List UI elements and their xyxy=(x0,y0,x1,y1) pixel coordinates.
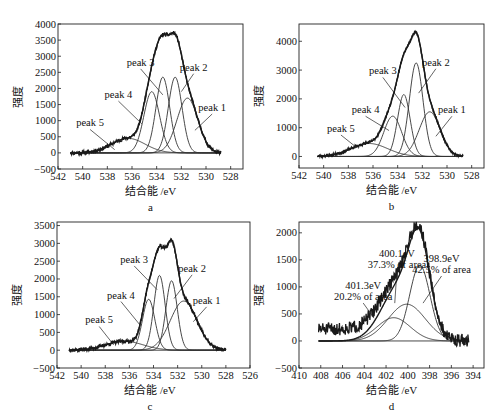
y-tick-label: 2000 xyxy=(276,227,297,238)
y-tick-label: 500 xyxy=(40,131,56,142)
x-tick-label: 536 xyxy=(365,170,381,181)
y-tick-label: 3500 xyxy=(35,35,56,46)
peak-annotation-label: peak 4 xyxy=(107,290,135,301)
y-tick-label: 0 xyxy=(292,151,297,162)
x-tick-label: 402 xyxy=(378,370,394,381)
peak-annotation-label: peak 1 xyxy=(198,102,226,113)
x-tick-label: 530 xyxy=(198,171,214,182)
peak-annotation-label: peak 2 xyxy=(180,62,208,73)
x-axis-title: 结合能 /eV xyxy=(366,183,418,196)
y-tick-label: 1500 xyxy=(34,291,55,302)
x-tick-label: 540 xyxy=(316,170,332,181)
fit-envelope-line xyxy=(70,33,220,153)
y-tick-label: 2000 xyxy=(34,273,55,284)
x-tick-label: 538 xyxy=(340,170,356,181)
y-tick-label: 3000 xyxy=(34,238,55,249)
chart-panel-a: −500050010001500200025003000350040005425… xyxy=(11,19,243,214)
peak-annotation-label: peak 4 xyxy=(105,89,133,100)
x-tick-label: 542 xyxy=(49,370,65,381)
annotation-leader-line xyxy=(436,116,452,136)
fit-envelope-line xyxy=(318,32,464,156)
peak-annotation-label: peak 5 xyxy=(327,123,355,134)
fit-component-curve xyxy=(70,77,220,153)
x-tick-label: 534 xyxy=(146,370,163,381)
y-tick-label: 500 xyxy=(39,327,55,338)
x-tick-label: 532 xyxy=(170,370,186,381)
chart-panel-c: −500050010001500200025003000350054254053… xyxy=(10,220,258,412)
x-tick-label: 528 xyxy=(223,171,239,182)
peak-area-annotation: 37.3% of area xyxy=(368,259,427,270)
x-axis-title: 结合能 /eV xyxy=(125,184,177,197)
y-tick-label: 2000 xyxy=(35,83,56,94)
x-tick-label: 536 xyxy=(122,370,138,381)
fit-envelope-line xyxy=(319,228,469,341)
chart-panel-b: 0100020003000400054254053853653453253052… xyxy=(252,24,484,212)
peak-annotation-label: peak 4 xyxy=(352,104,380,115)
peak-annotation-label: peak 1 xyxy=(438,104,466,115)
x-tick-label: 536 xyxy=(124,171,140,182)
annotation-leader-line xyxy=(341,135,357,148)
x-tick-label: 396 xyxy=(443,370,459,381)
y-tick-label: 4000 xyxy=(276,36,297,47)
y-axis-title: 强度 xyxy=(11,86,24,108)
annotation-leader-line xyxy=(141,69,163,95)
y-tick-label: 4000 xyxy=(35,19,56,30)
x-tick-label: 394 xyxy=(465,370,482,381)
x-tick-label: 538 xyxy=(99,171,115,182)
y-tick-label: 0 xyxy=(50,345,55,356)
y-tick-label: 0 xyxy=(51,147,56,158)
x-tick-label: 528 xyxy=(218,370,234,381)
panel-label: b xyxy=(389,200,395,212)
annotation-leader-line xyxy=(99,326,113,344)
peak-annotation-label: 400.1eV xyxy=(379,248,415,259)
x-tick-label: 410 xyxy=(291,370,307,381)
x-tick-label: 528 xyxy=(464,170,480,181)
y-tick-label: 1000 xyxy=(35,115,56,126)
y-tick-label: 500 xyxy=(281,308,297,319)
peak-annotation-label: peak 5 xyxy=(76,117,104,128)
peak-annotation-label: peak 3 xyxy=(369,65,397,76)
x-tick-label: 526 xyxy=(242,370,258,381)
y-tick-label: 0 xyxy=(292,335,297,346)
x-tick-label: 400 xyxy=(400,370,416,381)
peak-annotation-label: peak 1 xyxy=(193,295,221,306)
peak-annotation-label: 401.3eV xyxy=(345,280,381,291)
x-axis-title: 结合能 /eV xyxy=(124,383,176,396)
panel-label: a xyxy=(148,201,153,213)
y-tick-label: 1000 xyxy=(276,122,297,133)
chart-panel-d: −500050010001500200041040840640440240039… xyxy=(252,222,484,412)
x-tick-label: 538 xyxy=(97,370,113,381)
x-tick-label: 408 xyxy=(313,370,329,381)
y-tick-label: 2500 xyxy=(35,67,56,78)
x-tick-label: 398 xyxy=(422,370,438,381)
x-tick-label: 542 xyxy=(50,171,66,182)
y-tick-label: 3000 xyxy=(35,51,56,62)
panel-label: d xyxy=(389,400,395,412)
annotation-leader-line xyxy=(383,77,405,107)
peak-annotation-label: peak 2 xyxy=(422,57,450,68)
y-axis-title: 强度 xyxy=(252,85,265,107)
xps-figure: −500050010001500200025003000350040005425… xyxy=(0,0,503,419)
x-axis-title: 结合能 /eV xyxy=(366,383,418,396)
panel-label: c xyxy=(148,400,153,412)
y-tick-label: 1000 xyxy=(276,281,297,292)
y-axis-title: 强度 xyxy=(252,284,265,306)
y-tick-label: 3500 xyxy=(34,220,55,231)
y-tick-label: 2000 xyxy=(276,93,297,104)
annotation-leader-line xyxy=(121,302,140,326)
annotation-leader-line xyxy=(118,101,141,124)
x-tick-label: 540 xyxy=(73,370,89,381)
raw-spectrum-line xyxy=(318,31,464,157)
x-tick-label: 534 xyxy=(149,171,166,182)
x-tick-label: 532 xyxy=(173,171,189,182)
x-tick-label: 542 xyxy=(291,170,307,181)
peak-annotation-label: 398.9eV xyxy=(424,253,460,264)
x-tick-label: 530 xyxy=(439,170,455,181)
peak-annotation-label: peak 3 xyxy=(127,57,155,68)
fit-component-curve xyxy=(70,77,220,153)
x-tick-label: 530 xyxy=(194,370,210,381)
peak-annotation-label: peak 3 xyxy=(120,254,148,265)
y-tick-label: 1000 xyxy=(34,309,55,320)
peak-annotation-label: peak 5 xyxy=(85,314,113,325)
raw-spectrum-line xyxy=(319,222,469,347)
